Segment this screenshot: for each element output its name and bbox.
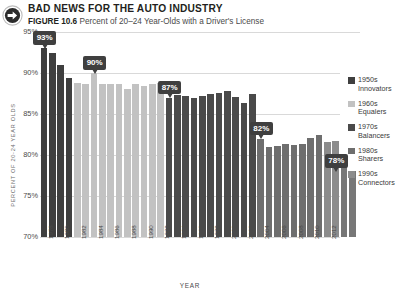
legend-generation-label: Innovators (358, 85, 407, 94)
x-axis-tick-label: 1980 (63, 225, 70, 239)
x-axis-tick-label: 1990 (147, 225, 154, 239)
bar (141, 86, 148, 237)
legend-swatch (348, 77, 355, 84)
bar (207, 94, 214, 237)
legend-swatch (348, 148, 355, 155)
bar (166, 98, 173, 237)
x-axis-tick-label: 1978 (47, 225, 54, 239)
callout-tail (42, 44, 48, 49)
bar (216, 93, 223, 237)
bar (307, 138, 314, 237)
y-axis-ticks: 95%90%85%80%75%70% (0, 32, 38, 242)
bar (157, 83, 164, 237)
x-axis-tick-label: 2012 (330, 225, 337, 239)
y-axis-tick-label: 85% (8, 109, 38, 118)
x-axis-tick-label: 2000 (230, 225, 237, 239)
bar (249, 94, 256, 238)
callout-label: 87% (158, 81, 181, 95)
bar (191, 98, 198, 237)
legend-generation-label: Connectors (358, 179, 407, 188)
bar (41, 48, 48, 237)
bar (282, 144, 289, 237)
x-axis-tick-label: 1992 (163, 225, 170, 239)
x-axis-tick-label: 1994 (180, 225, 187, 239)
bar (174, 95, 181, 237)
x-axis-tick-label: 2008 (297, 225, 304, 239)
legend-swatch (348, 171, 355, 178)
plot-region: 93%90%87%82%78% (40, 32, 340, 237)
callout-tail (167, 93, 173, 98)
bar (124, 89, 131, 237)
callout-tail (333, 167, 339, 172)
legend-swatch (348, 101, 355, 108)
bar (107, 84, 114, 237)
callout-label: 93% (33, 31, 56, 45)
bar (199, 96, 206, 237)
bar (74, 83, 81, 237)
y-axis-tick-label: 75% (8, 191, 38, 200)
y-axis-tick-label: 80% (8, 150, 38, 159)
x-axis-tick-label: 1988 (130, 225, 137, 239)
bar (341, 160, 348, 237)
bar (274, 146, 281, 237)
x-axis-tick-label: 2002 (247, 225, 254, 239)
bar (82, 84, 89, 237)
callout-label: 78% (325, 154, 348, 168)
y-axis-tick-label: 70% (8, 232, 38, 241)
x-axis-tick-label: 1984 (97, 225, 104, 239)
callout-label: 82% (250, 122, 273, 136)
legend-item[interactable]: 1980sSharers (348, 147, 407, 164)
legend-item[interactable]: 1960sEqualers (348, 100, 407, 117)
figure-header: BAD NEWS FOR THE AUTO INDUSTRY FIGURE 10… (0, 0, 407, 32)
chart-area: PERCENT OF 20-24 YEAR OLDS 95%90%85%80%7… (0, 32, 407, 307)
bar (291, 145, 298, 237)
x-axis-tick-label: 1986 (113, 225, 120, 239)
bar (299, 144, 306, 237)
bar (257, 139, 264, 237)
bar (57, 65, 64, 237)
bar (91, 73, 98, 237)
callout-label: 90% (83, 56, 106, 70)
bar (232, 97, 239, 237)
bar (132, 84, 139, 237)
callout-tail (258, 134, 264, 139)
bar (149, 84, 156, 237)
page-title: BAD NEWS FOR THE AUTO INDUSTRY (28, 3, 223, 14)
legend-item[interactable]: 1950sInnovators (348, 76, 407, 93)
legend-swatch (348, 124, 355, 131)
legend-item[interactable]: 1990sConnectors (348, 170, 407, 187)
x-axis-tick-label: 1996 (197, 225, 204, 239)
x-axis-title: YEAR (40, 282, 340, 289)
chart-legend: 1950sInnovators1960sEqualers1970sBalance… (348, 76, 407, 194)
bar (182, 96, 189, 237)
legend-generation-label: Balancers (358, 132, 407, 141)
bar (316, 135, 323, 238)
x-axis-tick-label: 2010 (313, 225, 320, 239)
x-axis-tick-label: 1982 (80, 225, 87, 239)
legend-generation-label: Sharers (358, 155, 407, 164)
x-axis-tick-label: 2006 (280, 225, 287, 239)
bar (266, 147, 273, 237)
figure-description: Percent of 20–24 Year-Olds with a Driver… (79, 17, 264, 26)
x-axis-tick-label: 2004 (263, 225, 270, 239)
bar (241, 103, 248, 237)
bar (66, 78, 73, 237)
figure-number: FIGURE 10.6 (28, 17, 77, 26)
legend-item[interactable]: 1970sBalancers (348, 123, 407, 140)
legend-generation-label: Equalers (358, 108, 407, 117)
x-axis-tick-label: 1998 (213, 225, 220, 239)
figure-caption: FIGURE 10.6 Percent of 20–24 Year-Olds w… (28, 17, 264, 26)
callout-tail (92, 69, 98, 74)
bar (99, 84, 106, 237)
x-axis-ticks: 1978198019821984198619881990199219941996… (40, 239, 340, 279)
y-axis-tick-label: 90% (8, 68, 38, 77)
bar (224, 91, 231, 237)
bar (49, 53, 56, 237)
arrow-right-circle-icon (2, 5, 23, 26)
bar (116, 84, 123, 237)
